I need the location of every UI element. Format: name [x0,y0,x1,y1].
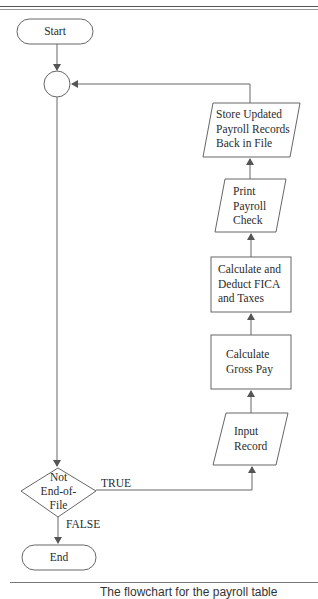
decision-line-3: File [21,498,96,512]
store-line-2: Payroll Records [216,122,290,137]
store-line-1: Store Updated [216,107,290,122]
figure-caption: The flowchart for the payroll table [100,585,277,599]
gross-line-1: Calculate [226,347,273,362]
store-line-3: Back in File [216,136,290,151]
input-line-2: Record [234,439,267,454]
input-line-1: Input [234,424,267,439]
decision-label: Not End-of- File [21,470,96,512]
decision-line-1: Not [21,470,96,484]
print-line-1: Print [233,184,266,199]
false-edge-label: FALSE [66,517,100,532]
end-label: End [22,550,96,565]
fica-line-1: Calculate and [218,262,281,277]
bottom-rule [10,582,318,583]
fica-line-3: and Taxes [218,291,281,306]
gross-label: Calculate Gross Pay [226,347,273,376]
start-label: Start [17,24,93,39]
store-label: Store Updated Payroll Records Back in Fi… [216,107,290,151]
true-edge-label: TRUE [101,476,131,491]
edge-store-connector [72,84,250,103]
fica-label: Calculate and Deduct FICA and Taxes [218,262,281,306]
print-line-2: Payroll [233,199,266,214]
print-line-3: Check [233,213,266,228]
gross-line-2: Gross Pay [226,362,273,377]
decision-line-2: End-of- [21,484,96,498]
fica-line-2: Deduct FICA [218,277,281,292]
connector-circle [44,71,70,97]
input-label: Input Record [234,424,267,453]
print-label: Print Payroll Check [233,184,266,228]
